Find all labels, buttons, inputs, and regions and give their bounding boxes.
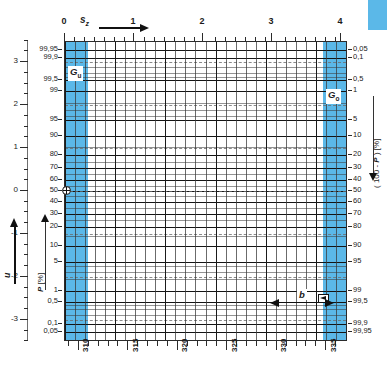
probability-axis-tick (58, 301, 62, 302)
bottom-axis-minor-tick (305, 341, 306, 346)
probability-axis-tick (58, 323, 62, 324)
complement-axis-tick (348, 79, 352, 80)
upper-limit-callout: Go (326, 89, 341, 104)
top-axis-major-tick (271, 33, 272, 41)
bottom-axis-tick-label: 320 (180, 339, 189, 352)
grid-line-vertical (226, 42, 227, 340)
complement-axis-tick-label: 90 (353, 241, 361, 249)
bottom-axis-minor-tick (167, 341, 168, 346)
complement-axis-tick-label: 99,5 (353, 297, 368, 305)
grid-line-vertical (216, 42, 217, 340)
probability-plot-figure: 0 1 2 3 4 sz 3210-1-2-3 u 99,9599,999,59… (0, 0, 387, 374)
complement-axis-tick (348, 201, 352, 202)
complement-axis-tick-label: 80 (353, 222, 361, 230)
complement-axis-tick (348, 135, 352, 136)
probability-axis-tick (58, 154, 62, 155)
bottom-axis-tick-label: 315 (131, 339, 140, 352)
complement-axis-tick (348, 245, 352, 246)
median-crosshair-marker (62, 186, 71, 195)
grid-line-vertical (256, 42, 257, 340)
top-axis-tick-label: 2 (199, 16, 204, 26)
bottom-axis-minor-tick (206, 341, 207, 346)
complement-axis-tick (348, 331, 352, 332)
grid-line-vertical (246, 42, 247, 340)
probability-axis-tick (58, 261, 62, 262)
top-axis-major-tick (340, 33, 341, 41)
bottom-axis-minor-tick (266, 341, 267, 346)
complement-axis-tick (348, 323, 352, 324)
grid-line-vertical (165, 42, 166, 340)
grid-line-vertical (145, 42, 146, 340)
probability-axis-tick (58, 179, 62, 180)
bottom-axis-minor-tick (68, 341, 69, 346)
top-axis-tick-label: 4 (337, 16, 342, 26)
probability-axis-tick-label: 40 (50, 197, 58, 205)
b-dimension-label: b (297, 289, 307, 300)
complement-axis-tick (348, 261, 352, 262)
bottom-axis-major-tick (276, 341, 277, 350)
bottom-axis-tick-label: 335 (329, 339, 338, 352)
complement-axis-tick (348, 190, 352, 191)
bottom-axis: 310315320325330335 (64, 341, 347, 374)
bottom-axis-major-tick (127, 341, 128, 350)
probability-axis-caption: P [%] (36, 273, 45, 292)
bottom-axis-minor-tick (246, 341, 247, 346)
arrow-left-icon (270, 299, 279, 307)
s-z-axis-symbol: sz (80, 14, 89, 27)
grid-line-vertical (175, 42, 176, 340)
bottom-axis-minor-tick (315, 341, 316, 346)
complement-axis-tick-label: 30 (353, 163, 361, 171)
complement-axis-tick (348, 154, 352, 155)
probability-axis-tick-label: 0,05 (43, 327, 58, 335)
probability-axis-tick-label: 0,5 (48, 297, 58, 305)
bottom-axis-tick-label: 310 (81, 339, 90, 352)
bottom-axis-minor-tick (108, 341, 109, 346)
bottom-axis-minor-tick (216, 341, 217, 346)
grid-line-vertical (346, 42, 347, 340)
grid-line-vertical (115, 42, 116, 340)
complement-axis-tick (348, 90, 352, 91)
probability-axis-tick (58, 135, 62, 136)
complement-axis-tick-label: 60 (353, 197, 361, 205)
complement-axis-tick (348, 119, 352, 120)
probability-axis-tick-label: 95 (50, 115, 58, 123)
probability-axis-tick-label: 99,9 (43, 53, 58, 61)
bottom-axis-major-tick (325, 341, 326, 350)
probability-axis-tick (58, 57, 62, 58)
complement-axis-tick-label: 1 (353, 86, 357, 94)
complement-axis-tick (348, 179, 352, 180)
probability-axis-tick-label: 99 (50, 86, 58, 94)
lower-limit-callout: Gu (68, 66, 83, 81)
complement-axis-tick-label: 0,1 (353, 53, 363, 61)
complement-axis-tick-label: 40 (353, 175, 361, 183)
complement-axis-tick-label: 99,95 (353, 327, 372, 335)
top-axis-major-tick (64, 33, 65, 41)
bottom-axis-minor-tick (98, 341, 99, 346)
bottom-axis-minor-tick (296, 341, 297, 346)
b-dimension-annotation: b (270, 291, 334, 307)
bottom-axis-tick-label: 325 (230, 339, 239, 352)
arrow-right-icon (325, 299, 334, 307)
bottom-axis-minor-tick (256, 341, 257, 346)
complement-axis-tick (348, 167, 352, 168)
bottom-axis-major-tick (78, 341, 79, 350)
grid-line-vertical (85, 42, 86, 340)
complement-axis-caption: ( 100 - P ) [%] (372, 139, 381, 188)
probability-axis-tick (58, 90, 62, 91)
complement-axis-tick-label: 10 (353, 131, 361, 139)
grid-line-vertical (95, 42, 96, 340)
bottom-axis-minor-tick (117, 341, 118, 346)
probability-axis-tick (58, 167, 62, 168)
probability-axis-tick-label: 80 (50, 150, 58, 158)
probability-axis-tick (58, 201, 62, 202)
complement-axis-tick (348, 290, 352, 291)
complement-axis-tick-label: 0,5 (353, 75, 363, 83)
probability-axis-tick (58, 245, 62, 246)
bottom-axis-major-tick (177, 341, 178, 350)
complement-axis-tick (348, 213, 352, 214)
bottom-axis-minor-tick (197, 341, 198, 346)
probability-axis-tick (58, 79, 62, 80)
probability-axis-labels: 99,9599,999,59995908070605040302010510,5… (0, 41, 62, 341)
probability-axis-tick (58, 331, 62, 332)
grid-line-vertical (155, 42, 156, 340)
